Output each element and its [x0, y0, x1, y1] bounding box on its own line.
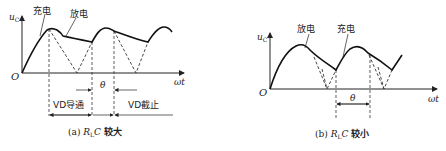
rectifier-waveform-figure: uC O ωt 充电 放电 θ VD导通 VD截止 (a) RLC 较大	[0, 0, 446, 151]
capacitor-voltage-curve	[22, 27, 172, 73]
charge-label: 充电	[337, 23, 355, 34]
origin-label: O	[11, 71, 19, 82]
y-axis-label: uC	[257, 32, 268, 43]
rectified-sine-dashed	[322, 67, 384, 89]
discharge-label: 放电	[70, 8, 88, 19]
conduct-label: VD导通	[53, 100, 84, 110]
theta-label: θ	[350, 93, 356, 103]
origin-label: O	[259, 87, 267, 98]
x-axis-label: ωt	[428, 94, 439, 104]
theta-label: θ	[100, 80, 106, 90]
discharge-label: 放电	[297, 23, 315, 34]
y-axis-label: uC	[9, 12, 20, 23]
caption-a: (a) RLC 较大	[68, 126, 122, 138]
caption-b: (b) RLC 较小	[315, 128, 369, 140]
diagram-b: uC O ωt 放电 充电 θ (b) RLC 较小	[257, 23, 439, 140]
discharge-leader	[66, 18, 76, 36]
charge-label: 充电	[33, 5, 51, 16]
discharge-leader	[305, 34, 309, 48]
x-axis-label: ωt	[174, 77, 185, 87]
cutoff-label: VD截止	[128, 99, 159, 110]
diagram-a: uC O ωt 充电 放电 θ VD导通 VD截止 (a) RLC 较大	[9, 5, 185, 138]
